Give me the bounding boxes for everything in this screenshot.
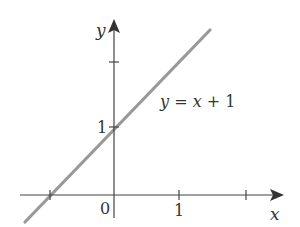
- origin-label: 0: [100, 199, 110, 218]
- x-tick-label-1: 1: [174, 201, 184, 220]
- y-axis-label: y: [95, 20, 106, 40]
- graph-canvas: y x 0 1 1 y = x + 1: [0, 0, 300, 227]
- equation-label: y = x + 1: [159, 92, 235, 111]
- x-axis-label: x: [270, 204, 280, 224]
- y-tick-label-1: 1: [97, 118, 107, 137]
- function-line: [25, 30, 210, 222]
- graph-figure: y x 0 1 1 y = x + 1: [0, 0, 300, 227]
